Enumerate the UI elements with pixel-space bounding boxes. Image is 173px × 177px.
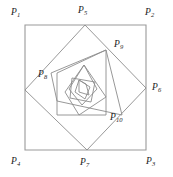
vertex-label-p3-sub: 3 bbox=[152, 160, 155, 167]
vertex-label-p4: P4 bbox=[11, 157, 20, 167]
vertex-label-p4-sub: 4 bbox=[17, 160, 20, 167]
polygon-square-2 bbox=[25, 25, 146, 150]
nested-squares-diagram bbox=[0, 0, 173, 177]
vertex-label-p8: P8 bbox=[38, 70, 47, 80]
vertex-label-p10-sub: 10 bbox=[116, 116, 123, 123]
vertex-label-p9-sub: 9 bbox=[120, 43, 123, 50]
vertex-label-p8-sub: 8 bbox=[44, 73, 47, 80]
vertex-label-p7-sub: 7 bbox=[86, 161, 89, 168]
geometric-figure: P1 P2 P3 P4 P5 P6 P7 P8 P9 P10 bbox=[0, 0, 173, 177]
vertex-label-p5-base: P bbox=[78, 5, 84, 15]
vertex-label-p1: P1 bbox=[11, 8, 20, 18]
vertex-label-p9: P9 bbox=[114, 40, 123, 50]
vertex-label-p9-base: P bbox=[114, 39, 120, 49]
vertex-label-p2: P2 bbox=[145, 8, 154, 18]
vertex-label-p2-base: P bbox=[145, 7, 151, 17]
vertex-label-p1-sub: 1 bbox=[17, 11, 20, 18]
vertex-label-p6: P6 bbox=[152, 83, 161, 93]
vertex-label-p2-sub: 2 bbox=[151, 11, 154, 18]
vertex-label-p7-base: P bbox=[80, 157, 86, 167]
vertex-label-p3-base: P bbox=[146, 156, 152, 166]
vertex-label-p8-base: P bbox=[38, 69, 44, 79]
vertex-label-p10-base: P bbox=[110, 112, 116, 122]
vertex-label-p1-base: P bbox=[11, 7, 17, 17]
vertex-label-p7: P7 bbox=[80, 158, 89, 168]
vertex-label-p4-base: P bbox=[11, 156, 17, 166]
polygon-square-3 bbox=[51, 50, 122, 115]
vertex-label-p5-sub: 5 bbox=[84, 9, 87, 16]
vertex-label-p6-base: P bbox=[152, 82, 158, 92]
vertex-label-p10: P10 bbox=[110, 113, 122, 123]
vertex-label-p5: P5 bbox=[78, 6, 87, 16]
vertex-label-p3: P3 bbox=[146, 157, 155, 167]
vertex-label-p6-sub: 6 bbox=[158, 86, 161, 93]
polygon-square-outer bbox=[25, 25, 146, 150]
polygon-square-4 bbox=[57, 50, 106, 115]
